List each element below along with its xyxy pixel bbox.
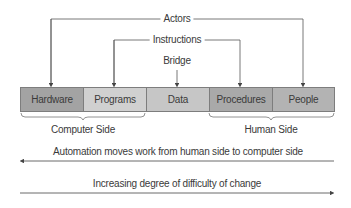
bridge-label: Bridge	[160, 55, 194, 67]
component-data: Data	[146, 87, 210, 112]
difficulty-arrow-label: Increasing degree of difficulty of chang…	[93, 178, 261, 190]
computer-side-label: Computer Side	[51, 124, 115, 136]
component-hardware: Hardware	[20, 87, 84, 112]
component-procedures: Procedures	[209, 87, 273, 112]
instructions-label: Instructions	[150, 34, 205, 46]
component-people: People	[272, 87, 335, 112]
automation-arrow-label: Automation moves work from human side to…	[53, 146, 303, 158]
component-programs: Programs	[83, 87, 147, 112]
actors-label: Actors	[160, 13, 193, 25]
human-side-label: Human Side	[244, 124, 297, 136]
